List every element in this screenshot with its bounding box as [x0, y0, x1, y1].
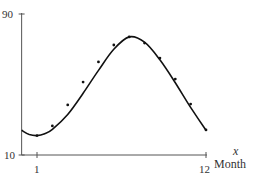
axes	[19, 13, 207, 158]
data-point	[36, 134, 39, 137]
chart-plot-area	[0, 0, 255, 180]
data-point	[159, 57, 162, 60]
data-point	[143, 42, 146, 45]
y-tick-label-90: 90	[2, 9, 13, 20]
x-axis-title: Month	[214, 158, 246, 170]
x-tick-label-12: 12	[199, 164, 210, 175]
x-axis-variable: x	[233, 145, 238, 157]
x-tick-label-1: 1	[34, 164, 40, 175]
data-point	[128, 36, 131, 39]
data-point	[97, 61, 100, 64]
data-point	[205, 129, 208, 132]
fitted-curve	[22, 37, 206, 136]
data-point	[82, 81, 85, 84]
data-point	[174, 78, 177, 81]
y-tick-label-10: 10	[4, 150, 15, 161]
data-point	[51, 125, 54, 128]
data-point	[66, 104, 69, 107]
data-point	[112, 44, 115, 47]
data-point	[189, 103, 192, 106]
